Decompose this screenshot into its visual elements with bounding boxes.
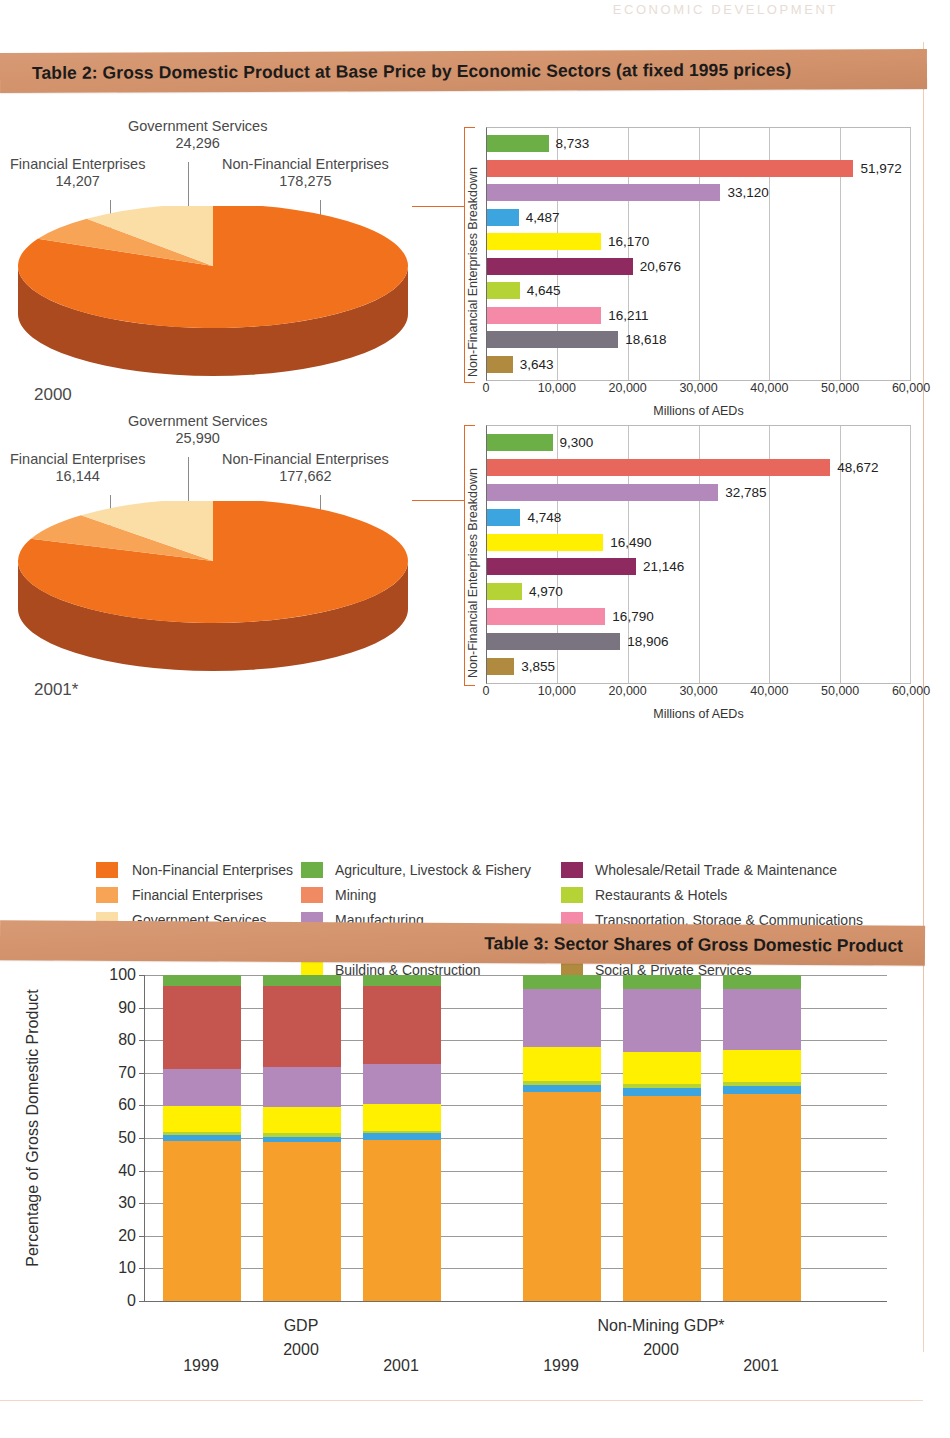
pie-slice-label: Financial Enterprises14,207 — [10, 156, 145, 190]
stacked-segment-0 — [623, 1096, 701, 1301]
legend-label: Wholesale/Retail Trade & Maintenance — [595, 862, 837, 878]
stacked-segment-5 — [163, 986, 241, 1069]
bar-5 — [487, 558, 636, 575]
stacked-y-tickmark — [139, 1268, 145, 1269]
stacked-y-tick-label: 40 — [118, 1161, 136, 1179]
table2-title: Table 2: Gross Domestic Product at Base … — [32, 59, 791, 83]
legend-item-sector-a-0: Agriculture, Livestock & Fishery — [301, 860, 561, 881]
pie-slice-name: Financial Enterprises — [10, 451, 145, 467]
bar-value-label: 16,170 — [608, 234, 649, 249]
stacked-x-group-label: Non-Mining GDP* — [597, 1317, 724, 1335]
pie-callout-labels: Government Services24,296Financial Enter… — [0, 118, 455, 213]
bar-value-label: 32,785 — [725, 485, 766, 500]
stacked-y-tick-label: 20 — [118, 1226, 136, 1244]
bar-row: 3,643 — [487, 356, 910, 373]
stacked-segment-4 — [363, 1064, 441, 1105]
bar-chart-bars: 9,30048,67232,7854,74816,49021,1464,9701… — [487, 426, 910, 683]
stacked-segment-4 — [163, 1069, 241, 1106]
stacked-segment-0 — [163, 1141, 241, 1301]
bar-value-label: 48,672 — [837, 460, 878, 475]
bar-row: 20,676 — [487, 258, 910, 275]
legend-swatch-icon — [301, 887, 323, 903]
bar-value-label: 33,120 — [727, 185, 768, 200]
stacked-segment-6 — [523, 975, 601, 989]
table3-banner: Table 3: Sector Shares of Gross Domestic… — [0, 920, 925, 966]
bar-value-label: 18,906 — [627, 634, 668, 649]
legend-item-sector-a-1: Mining — [301, 885, 561, 906]
breakdown-bracket — [464, 127, 475, 383]
bar-1 — [487, 459, 830, 476]
legend-label: Mining — [335, 887, 376, 903]
stacked-y-tick-label: 50 — [118, 1129, 136, 1147]
stacked-y-tickmark — [139, 1073, 145, 1074]
bar-value-label: 51,972 — [860, 161, 901, 176]
bar-3 — [487, 509, 520, 526]
bar-row: 4,970 — [487, 583, 910, 600]
bar-chart-x-tick: 60,000 — [892, 684, 930, 698]
stacked-y-tick-label: 100 — [109, 966, 136, 984]
bar-chart-x-tick: 40,000 — [750, 381, 788, 395]
stacked-bar-1 — [263, 975, 341, 1301]
pie-slice-name: Government Services — [128, 413, 267, 429]
pie-slice-name: Government Services — [128, 118, 267, 134]
bar-value-label: 20,676 — [640, 259, 681, 274]
bar-2 — [487, 484, 718, 501]
pie-slice-value: 16,144 — [10, 468, 145, 485]
bar-row: 9,300 — [487, 434, 910, 451]
bar-chart-plot-area: 9,30048,67232,7854,74816,49021,1464,9701… — [486, 425, 911, 684]
pie-slice-value: 177,662 — [222, 468, 389, 485]
table3-content: Percentage of Gross Domestic Product 010… — [0, 963, 923, 1393]
bar-0 — [487, 434, 553, 451]
bar-row: 21,146 — [487, 558, 910, 575]
legend-item-entity-1: Financial Enterprises — [96, 885, 301, 906]
bar-row: 16,790 — [487, 608, 910, 625]
bar-chart-x-tick: 30,000 — [679, 381, 717, 395]
bar-row: 51,972 — [487, 160, 910, 177]
bar-chart-x-tick: 50,000 — [821, 381, 859, 395]
stacked-bar-5 — [723, 975, 801, 1301]
stacked-segment-4 — [523, 989, 601, 1047]
bar-chart-x-axis: 010,00020,00030,00040,00050,00060,000 — [486, 381, 911, 399]
bar-6 — [487, 282, 520, 299]
stacked-segment-3 — [523, 1047, 601, 1081]
stacked-y-tickmark — [139, 1040, 145, 1041]
stacked-y-tick-label: 90 — [118, 998, 136, 1016]
legend-swatch-icon — [561, 887, 583, 903]
bar-row: 3,855 — [487, 658, 910, 675]
bar-3 — [487, 209, 519, 226]
stacked-y-tickmark — [139, 1301, 145, 1302]
stacked-y-tickmark — [139, 1203, 145, 1204]
bar-chart-x-axis-title: Millions of AEDs — [486, 404, 911, 418]
stacked-y-tick-label: 10 — [118, 1259, 136, 1277]
pie-slice-label: Government Services25,990 — [128, 413, 267, 447]
pie-slice-value: 178,275 — [222, 173, 389, 190]
stacked-segment-4 — [263, 1067, 341, 1108]
stacked-x-category: 1999 — [183, 1357, 219, 1375]
legend-item-sector-b-1: Restaurants & Hotels — [561, 885, 921, 906]
stacked-segment-6 — [623, 975, 701, 989]
table3-y-axis-title: Percentage of Gross Domestic Product — [22, 963, 44, 1293]
table2-banner: Table 2: Gross Domestic Product at Base … — [0, 49, 927, 93]
bar-9 — [487, 658, 514, 675]
legend-swatch-icon — [561, 862, 583, 878]
table2-content: Government Services24,296Financial Enter… — [0, 100, 923, 900]
bar-value-label: 21,146 — [643, 559, 684, 574]
stacked-y-tick-label: 0 — [127, 1292, 136, 1310]
stacked-y-tickmark — [139, 1008, 145, 1009]
bar-5 — [487, 258, 633, 275]
bar-value-label: 3,855 — [521, 659, 555, 674]
stacked-segment-4 — [623, 989, 701, 1052]
stacked-bar-4 — [623, 975, 701, 1301]
stacked-segment-0 — [263, 1142, 341, 1301]
bar-6 — [487, 583, 522, 600]
bar-value-label: 16,490 — [610, 535, 651, 550]
bar-row: 4,748 — [487, 509, 910, 526]
stacked-segment-0 — [723, 1094, 801, 1301]
stacked-segment-3 — [723, 1050, 801, 1082]
bar-chart-x-tick: 40,000 — [750, 684, 788, 698]
pie-slice-label: Government Services24,296 — [128, 118, 267, 152]
bar-row: 4,645 — [487, 282, 910, 299]
bar-value-label: 4,487 — [526, 210, 560, 225]
stacked-y-tick-label: 80 — [118, 1031, 136, 1049]
bar-row: 33,120 — [487, 184, 910, 201]
